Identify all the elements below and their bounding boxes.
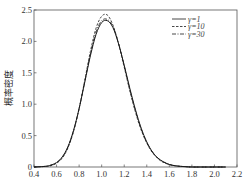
x-tick-label: 2.0: [209, 169, 220, 179]
y-tick-label: 1.5: [21, 68, 32, 78]
x-tick-label: 1.4: [141, 169, 152, 179]
x-tick-label: 1.6: [164, 169, 175, 179]
y-tick-label: 2.5: [21, 5, 32, 15]
y-tick-label: 1.0: [21, 99, 32, 109]
x-tick-label: 1.8: [187, 169, 198, 179]
y-tick-label: 0.5: [21, 131, 32, 141]
probability-density-chart: 0.40.60.81.01.21.41.61.82.02.2 00.51.01.…: [0, 0, 246, 184]
legend: γ=1γ=10γ=30: [172, 15, 205, 39]
x-tick-label: 0.6: [51, 169, 62, 179]
y-tick-label: 2.0: [21, 36, 32, 46]
legend-label: γ=30: [188, 30, 205, 39]
plot-border: [34, 10, 237, 167]
x-tick-label: 1.2: [119, 169, 130, 179]
x-tick-label: 2.2: [232, 169, 243, 179]
plot-frame: [34, 10, 237, 167]
series-line-3: [34, 19, 226, 167]
x-tick-label: 0.8: [74, 169, 85, 179]
y-axis-label: 概率密度: [3, 70, 14, 106]
y-tick-label: 0: [28, 162, 32, 172]
series-line-1: [34, 20, 226, 167]
x-tick-label: 1.0: [96, 169, 107, 179]
